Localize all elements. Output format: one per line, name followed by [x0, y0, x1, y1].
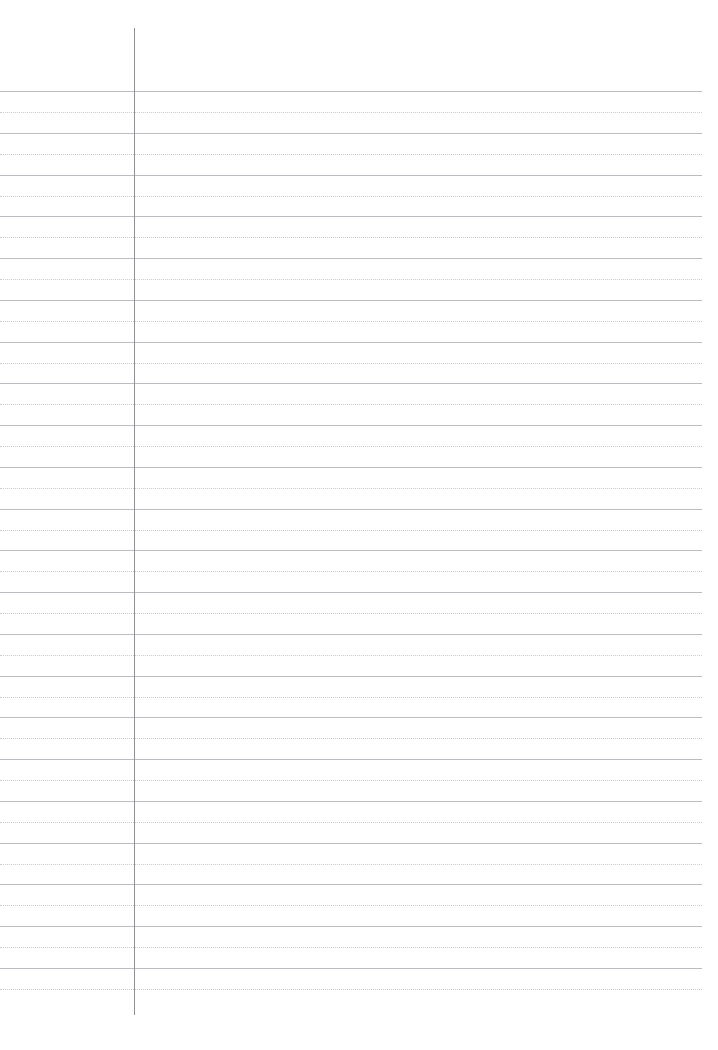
left-margin-column — [0, 0, 134, 1050]
footer-blank-area — [0, 989, 718, 1050]
writing-area — [134, 91, 702, 989]
ruled-paper-page — [0, 0, 718, 1050]
